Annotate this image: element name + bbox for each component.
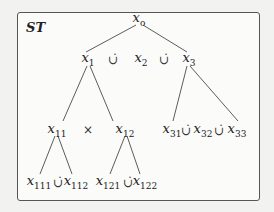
node-root: xo	[133, 10, 146, 28]
node-x3: x3	[182, 50, 195, 68]
node-x2: x2	[134, 50, 147, 68]
disjoint-union-operator: ∪̇	[181, 124, 191, 138]
node-x121: x121	[96, 173, 121, 191]
product-operator: ×	[83, 123, 93, 137]
node-x1: x1	[81, 50, 94, 68]
disjoint-union-operator: ∪̇	[123, 176, 133, 190]
disjoint-union-operator: ∪̇	[159, 53, 169, 67]
node-x31: x31	[163, 121, 182, 139]
disjoint-union-operator: ∪̇	[53, 176, 63, 190]
node-x111: x111	[27, 173, 52, 191]
node-x33: x33	[228, 121, 247, 139]
node-x11: x11	[48, 121, 67, 139]
node-x32: x32	[194, 121, 213, 139]
node-x122: x122	[133, 173, 158, 191]
disjoint-union-operator: ∪̇	[214, 124, 224, 138]
node-x12: x12	[116, 121, 135, 139]
node-x112: x112	[64, 173, 89, 191]
diagram-title: ST	[26, 20, 45, 35]
disjoint-union-operator: ∪̇	[108, 53, 118, 67]
